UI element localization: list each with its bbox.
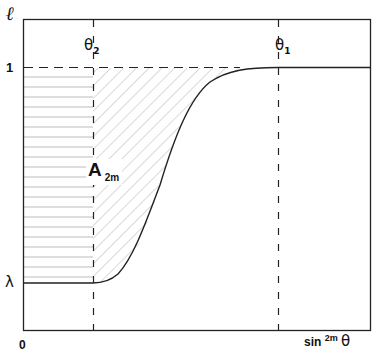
y-tick-one: 1 (6, 61, 13, 74)
area-label-sub: 2m (105, 172, 119, 183)
y-tick-lambda: λ (5, 275, 14, 290)
theta2-base: θ (84, 36, 93, 54)
x-axis-label-base: sin (304, 335, 321, 349)
area-label-base: A (88, 159, 102, 180)
theta1-label: θ1 (275, 38, 290, 56)
sigmoid-curve (24, 68, 371, 284)
horizontal-hatch (24, 77, 93, 277)
y-axis-label: ℓ (6, 4, 14, 23)
x-axis-label-var: θ (341, 332, 350, 350)
origin-label: 0 (19, 339, 26, 351)
theta1-sub: 1 (284, 46, 290, 56)
theta2-label: θ2 (84, 38, 99, 56)
x-axis-label: sin 2m θ (304, 334, 350, 349)
theta1-base: θ (275, 36, 284, 54)
x-axis-label-exp: 2m (325, 333, 338, 343)
theta2-sub: 2 (93, 46, 99, 56)
plot-frame (24, 20, 371, 331)
area-label: A2m (86, 159, 122, 185)
diagram-canvas (0, 0, 382, 358)
